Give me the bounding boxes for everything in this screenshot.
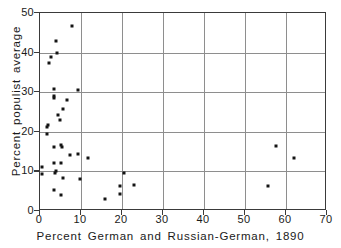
- data-point: [274, 145, 277, 148]
- x-tick-label: 70: [320, 213, 333, 225]
- data-point: [60, 145, 63, 148]
- x-tick-label: 60: [279, 213, 292, 225]
- x-tick-label: 10: [74, 213, 87, 225]
- x-tick-label: 30: [156, 213, 169, 225]
- data-point: [59, 193, 62, 196]
- gridline-vertical: [163, 13, 164, 209]
- data-point: [50, 55, 53, 58]
- gridline-horizontal: [40, 132, 325, 133]
- data-point: [48, 62, 51, 65]
- data-point: [57, 114, 60, 117]
- data-point: [61, 107, 64, 110]
- data-point: [60, 162, 63, 165]
- data-point: [46, 125, 49, 128]
- y-tick-mark: [34, 12, 39, 13]
- gridline-vertical: [286, 13, 287, 209]
- plot-area: [39, 12, 326, 210]
- data-point: [66, 99, 69, 102]
- data-point: [70, 24, 73, 27]
- data-point: [79, 177, 82, 180]
- y-tick-mark: [34, 210, 39, 211]
- data-point: [52, 97, 55, 100]
- data-point: [119, 193, 122, 196]
- data-point: [54, 171, 57, 174]
- data-point: [52, 188, 55, 191]
- x-tick-label: 40: [197, 213, 210, 225]
- gridline-horizontal: [40, 53, 325, 54]
- data-point: [293, 156, 296, 159]
- y-tick-label: 50: [21, 6, 34, 18]
- gridline-vertical: [245, 13, 246, 209]
- y-tick-mark: [34, 170, 39, 171]
- data-point: [55, 51, 58, 54]
- x-axis-label: Percent German and Russian-German, 1890: [0, 230, 341, 242]
- x-tick-label: 20: [115, 213, 128, 225]
- data-point: [52, 161, 55, 164]
- y-tick-mark: [34, 91, 39, 92]
- data-point: [41, 166, 44, 169]
- data-point: [119, 185, 122, 188]
- y-tick-label: 0: [28, 204, 34, 216]
- data-point: [55, 39, 58, 42]
- data-point: [58, 118, 61, 121]
- data-point: [87, 156, 90, 159]
- y-tick-label: 20: [21, 125, 34, 137]
- x-tick-label: 0: [36, 213, 42, 225]
- data-point: [76, 153, 79, 156]
- data-point: [123, 172, 126, 175]
- data-point: [52, 146, 55, 149]
- y-tick-label: 10: [21, 164, 34, 176]
- y-tick-mark: [34, 131, 39, 132]
- data-point: [53, 87, 56, 90]
- gridline-vertical: [204, 13, 205, 209]
- data-point: [68, 153, 71, 156]
- gridline-horizontal: [40, 171, 325, 172]
- data-point: [103, 197, 106, 200]
- data-point: [61, 177, 64, 180]
- y-tick-label: 40: [21, 46, 34, 58]
- y-tick-mark: [34, 52, 39, 53]
- gridline-horizontal: [40, 92, 325, 93]
- y-axis-label: Percent populist average: [10, 1, 22, 201]
- data-point: [76, 88, 79, 91]
- data-point: [45, 133, 48, 136]
- scatter-plot-figure: 010203040506070 01020304050 Percent Germ…: [0, 0, 341, 248]
- y-tick-label: 30: [21, 85, 34, 97]
- x-tick-label: 50: [238, 213, 251, 225]
- gridline-vertical: [122, 13, 123, 209]
- data-point: [40, 173, 43, 176]
- data-point: [132, 184, 135, 187]
- data-point: [266, 184, 269, 187]
